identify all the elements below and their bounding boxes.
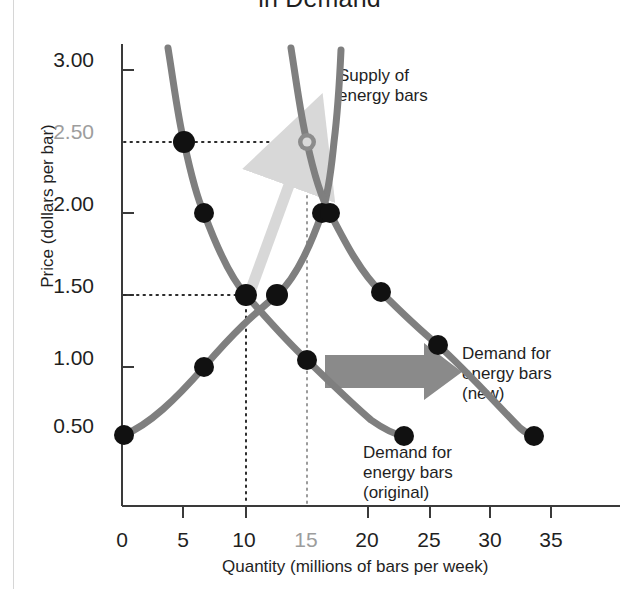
data-point bbox=[114, 425, 134, 445]
supply-data-points bbox=[114, 203, 332, 445]
y-axis-ticks bbox=[122, 70, 134, 367]
data-point bbox=[297, 350, 317, 370]
data-point bbox=[173, 131, 195, 153]
data-point bbox=[524, 426, 544, 446]
data-point bbox=[235, 284, 257, 306]
data-point bbox=[371, 282, 391, 302]
data-point bbox=[428, 335, 448, 355]
supply-curve bbox=[124, 50, 341, 435]
demand-new-data-points bbox=[320, 203, 544, 446]
new-equilibrium-marker bbox=[298, 133, 316, 151]
plot-area bbox=[0, 0, 639, 589]
data-point bbox=[320, 203, 340, 223]
data-point bbox=[394, 426, 414, 446]
data-point bbox=[266, 284, 288, 306]
data-point bbox=[194, 357, 214, 377]
data-point bbox=[194, 203, 214, 223]
axis-lines bbox=[122, 44, 620, 506]
x-axis-ticks bbox=[183, 506, 551, 518]
chart-figure: in Demand Price (dollars per bar) Quanti… bbox=[0, 0, 639, 589]
